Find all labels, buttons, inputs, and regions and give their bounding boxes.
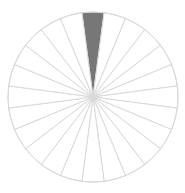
sector-group (8, 12, 178, 182)
sectored-circle-diagram (0, 0, 185, 193)
diagram-canvas (0, 0, 185, 193)
